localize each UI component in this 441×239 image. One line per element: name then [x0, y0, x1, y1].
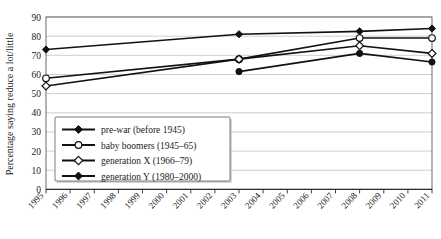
y-tick-label: 60 [32, 70, 42, 80]
x-tick-label: 2005 [267, 190, 287, 210]
legend-label: baby boomers (1945–65) [101, 141, 197, 152]
x-tick-label: 1996 [50, 190, 70, 210]
data-point-marker [356, 35, 363, 42]
x-tick-label: 1995 [26, 190, 46, 210]
series-generation-x-1966-79- [42, 42, 436, 90]
y-tick-label: 30 [32, 127, 42, 137]
x-tick-label: 2009 [364, 190, 384, 210]
x-tick-label: 2004 [243, 190, 263, 210]
chart-legend: pre-war (before 1945) baby boomers (1945… [55, 117, 232, 183]
data-point-marker [428, 25, 435, 32]
x-tick-label: 2011 [412, 191, 431, 211]
x-tick-label: 2010 [388, 190, 408, 210]
x-tick-label: 1999 [122, 190, 142, 210]
data-point-marker [236, 68, 242, 74]
line-chart: Percentage saying reduce a lot/little 90… [0, 0, 441, 239]
data-point-marker [43, 75, 50, 82]
y-tick-label: 90 [32, 13, 42, 23]
data-point-marker [356, 42, 364, 50]
y-axis-label: Percentage saying reduce a lot/little [4, 32, 15, 175]
x-tick-label: 1998 [98, 190, 118, 210]
data-point-marker [357, 50, 363, 56]
y-tick-label: 80 [32, 32, 42, 42]
x-tick-label: 2002 [195, 191, 215, 211]
data-point-marker [42, 82, 50, 90]
legend-label: pre-war (before 1945) [101, 125, 185, 136]
data-point-marker [42, 46, 49, 53]
y-tick-label: 70 [32, 51, 42, 61]
open-circle-icon [75, 142, 82, 149]
x-tick-label: 2006 [291, 190, 311, 210]
x-tick-label: 2003 [219, 190, 239, 210]
x-tick-label: 2008 [339, 190, 359, 210]
x-tick-label: 2000 [146, 190, 166, 210]
legend-label: generation Y (1980–2000) [101, 172, 201, 183]
data-point-marker [235, 31, 242, 38]
data-point-marker [356, 28, 363, 35]
series-pre-war-before-1945- [42, 25, 435, 53]
y-tick-labels: 90 80 70 60 50 40 30 20 10 0 [32, 13, 42, 195]
x-tick-label: 2001 [171, 191, 191, 211]
series-layer [42, 25, 436, 90]
x-tick-label: 1997 [74, 190, 94, 210]
y-tick-label: 50 [32, 89, 42, 99]
data-point-marker [429, 35, 436, 42]
legend-label: generation X (1966–79) [101, 156, 192, 167]
data-point-marker [429, 59, 435, 65]
chart-figure: Percentage saying reduce a lot/little 90… [0, 0, 441, 239]
y-tick-label: 10 [32, 166, 42, 176]
data-point-marker [428, 50, 436, 58]
y-tick-label: 40 [32, 108, 42, 118]
series-line [46, 46, 432, 86]
y-tick-label: 20 [32, 147, 42, 157]
x-tick-label: 2007 [315, 190, 335, 210]
x-tick-labels: 1995 1996 1997 1998 1999 2000 2001 2002 … [26, 190, 432, 210]
